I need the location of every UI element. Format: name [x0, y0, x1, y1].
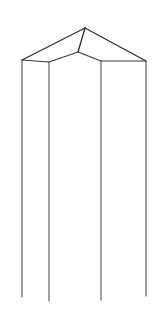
- edge-front-top-to-right-front-corner: [78, 52, 101, 61]
- figure-canvas: [0, 0, 160, 318]
- edge-left-corner-to-left-front-corner: [22, 60, 49, 62]
- prism-wireframe-svg: [0, 0, 160, 318]
- edge-apex-to-right-corner: [85, 28, 146, 61]
- edge-apex-to-left-corner: [22, 28, 85, 60]
- edge-front-top-to-left-front-corner: [49, 52, 78, 62]
